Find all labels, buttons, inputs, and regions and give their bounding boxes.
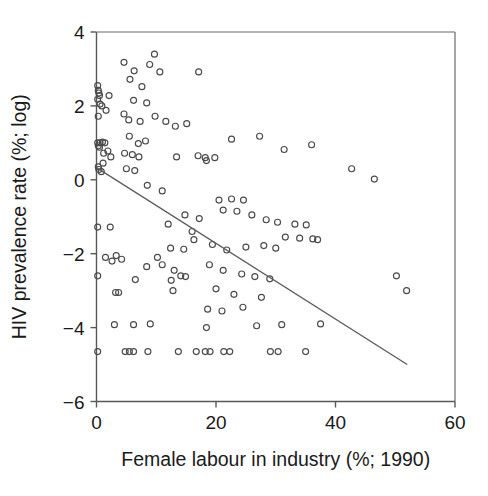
data-point (404, 288, 410, 294)
data-point (303, 222, 309, 228)
data-point (216, 197, 222, 203)
data-point (108, 154, 114, 160)
data-point (147, 321, 153, 327)
data-point (229, 196, 235, 202)
regression-line (97, 168, 408, 365)
data-point (243, 244, 249, 250)
data-point (129, 152, 135, 158)
x-axis-title: Female labour in industry (%; 1990) (121, 448, 430, 470)
data-point (127, 76, 133, 82)
data-point (131, 68, 137, 74)
data-point (371, 176, 377, 182)
data-point (107, 224, 113, 230)
data-point (234, 208, 240, 214)
data-point (144, 264, 150, 270)
data-point (170, 288, 176, 294)
data-point (220, 207, 226, 213)
data-point (159, 188, 165, 194)
data-point (249, 212, 255, 218)
y-tick-label: 4 (74, 22, 85, 43)
chart-canvas: 0204060−6−4−2024 Female labour in indust… (0, 0, 488, 496)
trendline (97, 168, 408, 365)
data-point (122, 150, 128, 156)
y-tick-label: 2 (74, 96, 85, 117)
y-tick-label: −6 (63, 392, 85, 413)
x-tick-label: 40 (325, 412, 346, 433)
data-point (203, 325, 209, 331)
data-point (95, 349, 101, 355)
data-point (349, 166, 355, 172)
data-point (267, 349, 273, 355)
data-point (309, 142, 315, 148)
data-point (139, 84, 145, 90)
x-tick-label: 60 (444, 412, 465, 433)
data-point (174, 154, 180, 160)
data-point (103, 107, 109, 113)
data-point (113, 253, 119, 259)
data-point (212, 155, 218, 161)
data-point (106, 93, 112, 99)
data-point (206, 262, 212, 268)
data-point (121, 59, 127, 65)
plot-frame (97, 32, 456, 402)
data-point (263, 217, 269, 223)
data-point (240, 304, 246, 310)
data-point (135, 141, 141, 147)
data-point (175, 349, 181, 355)
data-point (131, 97, 137, 103)
data-point (144, 182, 150, 188)
data-point (193, 349, 199, 355)
data-point (213, 286, 219, 292)
data-point (184, 121, 190, 127)
data-point (132, 277, 138, 283)
data-point (254, 323, 260, 329)
data-point (275, 219, 281, 225)
data-point (171, 267, 177, 273)
data-point (168, 245, 174, 251)
data-point (273, 245, 279, 251)
data-point (154, 254, 160, 260)
data-point (393, 273, 399, 279)
data-point (159, 262, 165, 268)
data-point (143, 138, 149, 144)
data-point (109, 258, 115, 264)
y-tick-label: −4 (63, 318, 85, 339)
data-point (279, 322, 285, 328)
data-point (191, 237, 197, 243)
y-tick-label: −2 (63, 244, 85, 265)
data-point (136, 154, 142, 160)
data-point (131, 349, 137, 355)
data-point (95, 224, 101, 230)
data-point (275, 349, 281, 355)
data-point (281, 147, 287, 153)
data-point (318, 321, 324, 327)
x-tick-label: 20 (205, 412, 226, 433)
data-point (220, 267, 226, 273)
data-point (261, 243, 267, 249)
data-point (196, 216, 202, 222)
data-point (221, 349, 227, 355)
data-point (172, 123, 178, 129)
y-axis-title: HIV prevalence rate (%; log) (8, 94, 30, 339)
data-point (152, 113, 158, 119)
data-point (231, 291, 237, 297)
x-tick-label: 0 (91, 412, 102, 433)
data-point (292, 221, 298, 227)
data-point (252, 274, 258, 280)
data-point (182, 212, 188, 218)
data-point (137, 118, 143, 124)
data-point (240, 197, 246, 203)
data-point (147, 62, 153, 68)
data-points (95, 51, 410, 354)
data-point (239, 271, 245, 277)
data-point (144, 100, 150, 106)
data-point (195, 153, 201, 159)
scatter-plot-figure: 0204060−6−4−2024 Female labour in indust… (0, 0, 488, 496)
data-point (257, 133, 263, 139)
axis-tick-labels: 0204060−6−4−2024 (63, 22, 466, 433)
data-point (227, 349, 233, 355)
data-point (121, 111, 127, 117)
data-point (303, 349, 309, 355)
data-point (196, 69, 202, 75)
data-point (219, 308, 225, 314)
